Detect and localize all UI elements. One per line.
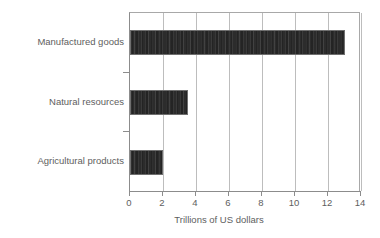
y-axis-tick-1	[123, 72, 129, 73]
bar-0[interactable]	[130, 30, 345, 55]
x-axis-tick-4	[195, 191, 196, 196]
x-axis-ticklabel-4: 4	[192, 197, 197, 208]
x-axis-ticklabel-2: 2	[159, 197, 164, 208]
y-axis-label-2: Agricultural products	[37, 155, 124, 166]
x-axis-tick-0	[129, 191, 130, 196]
bar-1[interactable]	[130, 90, 188, 115]
bar-row	[130, 30, 359, 55]
bar-chart: Manufactured goodsNatural resourcesAgric…	[0, 0, 380, 238]
x-axis-ticklabel-12: 12	[322, 197, 333, 208]
x-axis-title: Trillions of US dollars	[0, 214, 380, 225]
x-axis-tick-12	[327, 191, 328, 196]
gridline-14	[361, 13, 362, 191]
x-axis-tick-8	[261, 191, 262, 196]
bar-2[interactable]	[130, 150, 163, 175]
x-axis-tick-14	[360, 191, 361, 196]
plot-area	[129, 12, 360, 191]
bar-row	[130, 90, 359, 115]
x-axis-ticklabel-14: 14	[355, 197, 366, 208]
x-axis-ticklabel-0: 0	[126, 197, 131, 208]
x-axis-tick-2	[162, 191, 163, 196]
x-axis-ticklabel-8: 8	[258, 197, 263, 208]
y-axis-label-0: Manufactured goods	[37, 36, 124, 47]
bar-row	[130, 150, 359, 175]
x-axis-ticklabel-10: 10	[289, 197, 300, 208]
y-axis-tick-2	[123, 131, 129, 132]
y-axis-label-1: Natural resources	[49, 96, 124, 107]
x-axis-tick-10	[294, 191, 295, 196]
bars-layer	[130, 13, 359, 191]
x-axis-line	[129, 191, 360, 192]
x-axis-ticklabel-6: 6	[225, 197, 230, 208]
x-axis-title-label: Trillions of US dollars	[174, 214, 263, 225]
x-axis-tick-6	[228, 191, 229, 196]
